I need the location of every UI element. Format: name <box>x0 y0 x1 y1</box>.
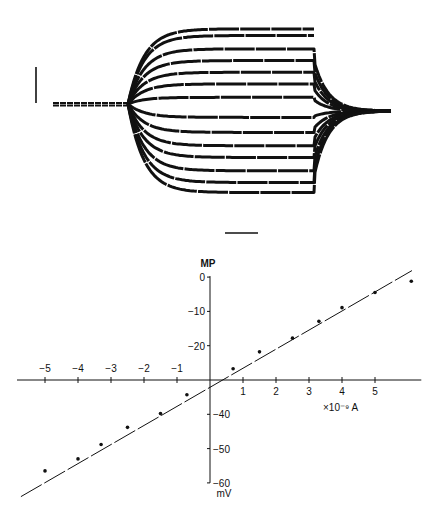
y-tick-label: −20 <box>188 341 205 352</box>
data-point <box>410 279 414 283</box>
voltage-traces-panel <box>36 29 391 233</box>
y-axis-title-mp: MP <box>201 258 216 269</box>
x-tick-label: 2 <box>273 386 279 397</box>
y-tick-label: −10 <box>188 306 205 317</box>
data-point <box>185 393 189 397</box>
data-point <box>317 320 321 324</box>
x-tick-label: 5 <box>372 386 378 397</box>
data-point <box>126 426 130 430</box>
baseline-segment <box>53 103 128 106</box>
data-point <box>291 336 295 340</box>
x-axis-unit-label: ×10⁻⁹ A <box>323 402 358 413</box>
sweep-trace <box>128 49 391 111</box>
sweep-trace <box>128 72 391 111</box>
data-point <box>159 412 163 416</box>
data-point <box>340 306 344 310</box>
sweep-trace <box>128 29 314 104</box>
data-point <box>231 367 235 371</box>
y-tick-label: −40 <box>213 409 230 420</box>
x-tick-label: −4 <box>72 363 84 374</box>
current-voltage-plot: −5−4−3−2−112345 0−10−20−40−50−60 MP mV ×… <box>17 258 421 499</box>
fit-line <box>21 271 412 497</box>
data-point <box>43 469 47 473</box>
data-point <box>76 457 80 461</box>
sweep-traces <box>128 29 391 193</box>
y-tick-label: −50 <box>213 444 230 455</box>
x-tick-label: −5 <box>39 363 51 374</box>
sweep-trace <box>128 97 391 111</box>
y-tick-label: 0 <box>199 272 205 283</box>
data-point <box>258 350 262 354</box>
baseline-trace <box>53 103 128 106</box>
x-tick-label: 1 <box>240 386 246 397</box>
x-tick-label: 4 <box>339 386 345 397</box>
x-tick-label: −2 <box>138 363 150 374</box>
data-point <box>99 443 103 447</box>
x-tick-label: −3 <box>105 363 117 374</box>
y-axis-unit-mv: mV <box>217 488 232 499</box>
data-point <box>373 291 377 295</box>
x-tick-label: 3 <box>306 386 312 397</box>
x-tick-label: −1 <box>171 363 183 374</box>
figure: −5−4−3−2−112345 0−10−20−40−50−60 MP mV ×… <box>0 0 439 528</box>
